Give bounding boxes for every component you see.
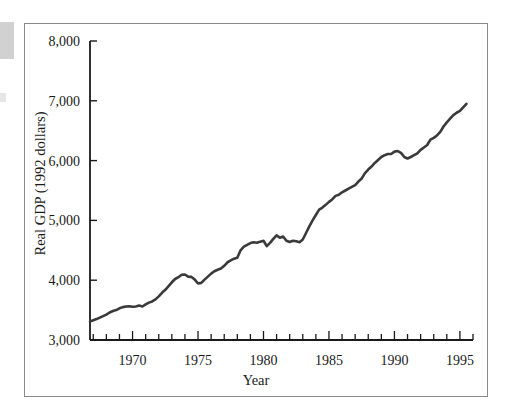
scan-artifact (0, 22, 14, 59)
x-tick-label: 1975 (184, 353, 212, 368)
x-axis-label: Year (24, 372, 488, 389)
data-line-real-gdp (90, 104, 466, 322)
x-tick-label: 1995 (446, 353, 474, 368)
y-tick-label: 5,000 (49, 213, 81, 228)
scan-artifact-secondary (0, 93, 6, 102)
y-tick-label: 4,000 (49, 273, 81, 288)
x-tick-label: 1985 (315, 353, 343, 368)
x-tick-label: 1980 (249, 353, 277, 368)
x-tick-label: 1970 (119, 353, 147, 368)
y-tick-label: 7,000 (49, 94, 81, 109)
y-axis-label: Real GDP (1992 dollars) (32, 84, 49, 284)
x-tick-label: 1990 (380, 353, 408, 368)
line-chart-plot: 3,0004,0005,0006,0007,0008,0001970197519… (24, 23, 488, 397)
y-tick-label: 6,000 (49, 154, 81, 169)
gdp-figure: 3,0004,0005,0006,0007,0008,0001970197519… (0, 0, 508, 418)
y-tick-label: 3,000 (49, 333, 81, 348)
y-tick-label: 8,000 (49, 34, 81, 49)
